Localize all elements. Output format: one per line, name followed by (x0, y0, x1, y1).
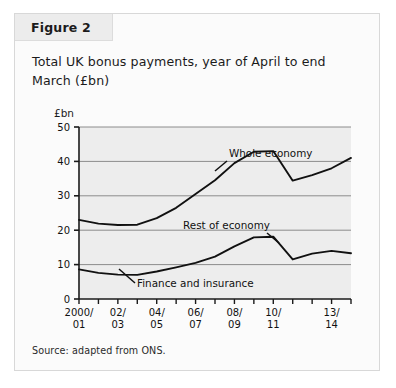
figure-card: Figure 2 Total UK bonus payments, year o… (14, 13, 380, 371)
x-tick-label: 13/ (324, 307, 341, 318)
figure-tab: Figure 2 (15, 14, 113, 41)
x-tick-label: 04/ (149, 307, 166, 318)
x-tick-label: 09 (228, 319, 241, 330)
x-tick-label: 14 (325, 319, 338, 330)
x-tick-label: 10/ (265, 307, 282, 318)
line-chart: 01020304050 2000/0102/0304/0506/0708/091… (23, 117, 375, 332)
figure-title: Total UK bonus payments, year of April t… (32, 52, 352, 90)
annotation-label: Rest of economy (183, 219, 270, 231)
figure-number-label: Figure 2 (31, 20, 91, 35)
x-tick-label: 2000/ (65, 307, 94, 318)
y-tick-label: 40 (57, 156, 70, 167)
y-tick-label: 20 (57, 225, 70, 236)
x-tick-label: 08/ (226, 307, 243, 318)
y-tick-label: 30 (57, 190, 70, 201)
chart-svg: 01020304050 2000/0102/0304/0506/0708/091… (23, 117, 375, 332)
x-tick-label: 01 (73, 319, 86, 330)
y-axis-ticks: 01020304050 (57, 122, 79, 305)
x-tick-label: 02/ (110, 307, 127, 318)
x-tick-label: 11 (267, 319, 280, 330)
x-tick-label: 07 (189, 319, 202, 330)
x-axis-ticks: 2000/0102/0304/0506/0708/0910/1113/14 (65, 299, 351, 330)
annotation-label: Whole economy (229, 147, 312, 159)
annotation-label: Finance and insurance (137, 277, 254, 289)
y-tick-label: 50 (57, 122, 70, 133)
x-tick-label: 06/ (188, 307, 205, 318)
figure-source: Source: adapted from ONS. (32, 345, 166, 356)
y-tick-label: 0 (64, 294, 70, 305)
x-tick-label: 03 (111, 319, 124, 330)
x-tick-label: 05 (150, 319, 163, 330)
y-tick-label: 10 (57, 259, 70, 270)
